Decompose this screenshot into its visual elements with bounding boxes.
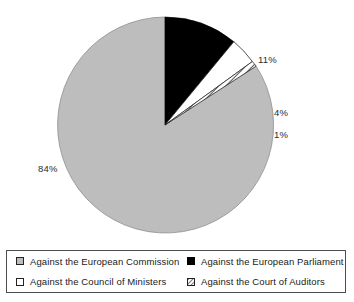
data-label-council-of-ministers: 4% (274, 108, 288, 118)
data-label-european-parliament: 11% (258, 55, 277, 65)
legend-item-court-of-auditors[interactable]: Against the Court of Auditors (183, 277, 347, 287)
legend-label-council-of-ministers: Against the Council of Ministers (30, 277, 166, 287)
data-label-european-commission: 84% (38, 164, 58, 174)
gray-square-swatch-icon (16, 257, 24, 265)
pie-chart-plot-area: 11% 4% 1% 84% (0, 0, 354, 246)
white-square-swatch-icon (16, 278, 24, 286)
legend-label-european-parliament: Against the European Parliament (201, 257, 344, 267)
legend-label-european-commission: Against the European Commission (30, 257, 179, 267)
legend-item-european-parliament[interactable]: Against the European Parliament (183, 257, 347, 267)
black-square-swatch-icon (187, 257, 195, 265)
data-label-court-of-auditors: 1% (274, 130, 288, 140)
chart-legend: Against the European Commission Against … (6, 250, 346, 293)
legend-grid: Against the European Commission Against … (7, 251, 345, 292)
pie-chart-figure: 11% 4% 1% 84% Against the European Commi… (0, 0, 354, 302)
legend-item-council-of-ministers[interactable]: Against the Council of Ministers (7, 277, 183, 287)
legend-label-court-of-auditors: Against the Court of Auditors (201, 277, 325, 287)
hatched-square-swatch-icon (187, 278, 195, 286)
legend-item-european-commission[interactable]: Against the European Commission (7, 257, 183, 267)
pie-chart-svg (0, 0, 354, 246)
